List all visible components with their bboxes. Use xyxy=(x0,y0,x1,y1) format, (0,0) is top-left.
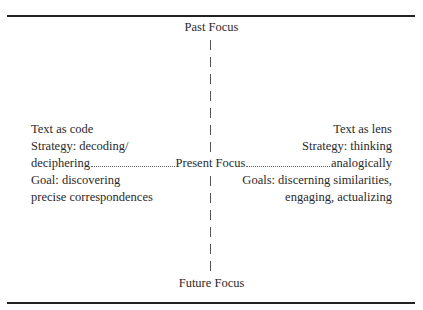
vertical-axis-segment xyxy=(210,91,211,101)
vertical-axis-segment xyxy=(210,108,211,118)
present-row: deciphering Present Focus analogically xyxy=(0,155,423,172)
left-goal-line1: Goal: discovering xyxy=(31,172,120,189)
past-focus-label: Past Focus xyxy=(0,19,423,36)
top-rule xyxy=(7,15,415,17)
vertical-axis-segment xyxy=(210,74,211,84)
right-goal-line2: engaging, actualizing xyxy=(285,189,392,206)
text-as-code-title: Text as code xyxy=(31,121,93,138)
vertical-axis-segment xyxy=(210,57,211,67)
future-focus-label: Future Focus xyxy=(0,275,423,292)
axis-row xyxy=(0,53,423,70)
axis-row: Goal: discovering Goals: discerning simi… xyxy=(0,172,423,189)
left-strategy-line2: deciphering xyxy=(31,155,90,172)
vertical-axis-segment xyxy=(210,210,211,220)
vertical-axis-segment xyxy=(210,227,211,237)
axis-row xyxy=(0,36,423,53)
axis-row xyxy=(0,240,423,257)
axis-row: precise correspondences engaging, actual… xyxy=(0,189,423,206)
right-strategy-line2: analogically xyxy=(331,155,392,172)
vertical-axis-segment xyxy=(210,244,211,254)
right-dotted-leader xyxy=(246,166,330,167)
bottom-rule xyxy=(7,302,415,304)
right-goal-line1: Goals: discerning similarities, xyxy=(242,172,392,189)
vertical-axis-segment xyxy=(210,193,211,203)
vertical-axis-segment xyxy=(210,176,211,186)
horizontal-axis: deciphering Present Focus analogically xyxy=(31,155,392,172)
axis-row xyxy=(0,87,423,104)
vertical-axis-segment xyxy=(210,142,211,152)
vertical-axis-segment xyxy=(210,40,211,50)
axis-row xyxy=(0,104,423,121)
text-as-lens-title: Text as lens xyxy=(333,121,392,138)
present-focus-label: Present Focus xyxy=(176,155,246,172)
axis-row: Text as code Text as lens xyxy=(0,121,423,138)
axis-row xyxy=(0,206,423,223)
axis-row xyxy=(0,223,423,240)
right-strategy-line1: Strategy: thinking xyxy=(302,138,392,155)
axis-row xyxy=(0,257,423,274)
axis-row: Strategy: decoding/ Strategy: thinking xyxy=(0,138,423,155)
left-dotted-leader xyxy=(91,166,175,167)
left-goal-line2: precise correspondences xyxy=(31,189,153,206)
vertical-axis-segment xyxy=(210,125,211,135)
axis-row xyxy=(0,70,423,87)
row-future: Future Focus xyxy=(0,275,423,292)
left-strategy-line1: Strategy: decoding/ xyxy=(31,138,129,155)
row-past: Past Focus xyxy=(0,19,423,36)
vertical-axis-segment xyxy=(210,261,211,271)
